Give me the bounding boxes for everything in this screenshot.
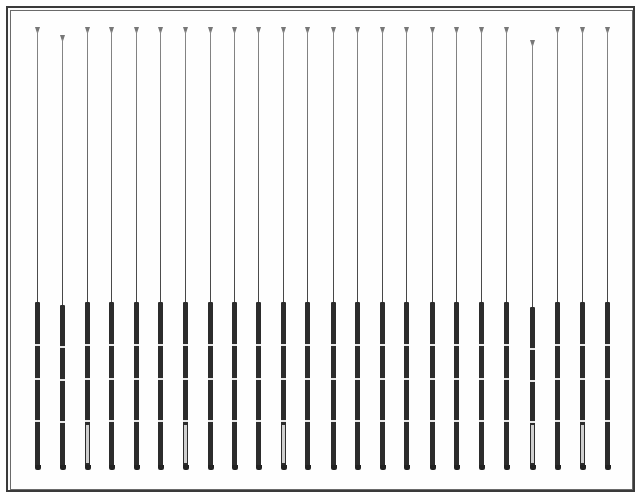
rod-wrap-band bbox=[454, 344, 459, 346]
rod-grip bbox=[581, 425, 584, 463]
rod-butt-cap bbox=[183, 465, 189, 470]
rod-butt-cap bbox=[580, 465, 586, 470]
rod-wrap-band bbox=[504, 378, 509, 380]
rod-wrap-band bbox=[281, 420, 286, 422]
rod-wrap-band bbox=[281, 378, 286, 380]
rod-wrap-band bbox=[158, 344, 163, 346]
rod-butt bbox=[355, 302, 360, 466]
rod-wrap-band bbox=[109, 344, 114, 346]
rod-butt bbox=[305, 302, 310, 466]
fishing-rod bbox=[184, 27, 187, 470]
rod-wrap-band bbox=[404, 344, 409, 346]
rod-shaft bbox=[111, 31, 113, 306]
rod-butt bbox=[479, 302, 484, 466]
fishing-rod bbox=[282, 27, 285, 470]
rod-shaft bbox=[62, 39, 64, 309]
rod-butt bbox=[430, 302, 435, 466]
rod-shaft bbox=[382, 31, 384, 306]
rod-wrap-band bbox=[530, 380, 535, 382]
rod-butt-cap bbox=[158, 465, 164, 470]
rod-wrap-band bbox=[555, 344, 560, 346]
rod-wrap-band bbox=[208, 344, 213, 346]
rod-shaft bbox=[37, 31, 39, 306]
rod-butt-cap bbox=[208, 465, 214, 470]
rod-shaft bbox=[160, 31, 162, 306]
rod-butt-cap bbox=[380, 465, 386, 470]
rod-butt bbox=[380, 302, 385, 466]
rod-butt bbox=[504, 302, 509, 466]
rod-wrap-band bbox=[85, 378, 90, 380]
rod-wrap-band bbox=[605, 344, 610, 346]
rod-shaft bbox=[432, 31, 434, 306]
rod-wrap-band bbox=[281, 344, 286, 346]
fishing-rod bbox=[209, 27, 212, 470]
rod-shaft bbox=[406, 31, 408, 306]
fishing-rod bbox=[480, 27, 483, 470]
rod-wrap-band bbox=[134, 344, 139, 346]
rod-shaft bbox=[136, 31, 138, 306]
rod-wrap-band bbox=[60, 379, 65, 381]
rod-wrap-band bbox=[580, 344, 585, 346]
rod-butt bbox=[256, 302, 261, 466]
fishing-rod bbox=[556, 27, 559, 470]
rod-wrap-band bbox=[208, 378, 213, 380]
fishing-rod bbox=[159, 27, 162, 470]
rod-grip bbox=[184, 425, 187, 463]
rod-butt-cap bbox=[281, 465, 287, 470]
rod-butt-cap bbox=[454, 465, 460, 470]
fishing-rod bbox=[405, 27, 408, 470]
rod-butt bbox=[109, 302, 114, 466]
rod-wrap-band bbox=[404, 378, 409, 380]
rod-butt bbox=[331, 302, 336, 466]
rod-wrap-band bbox=[331, 344, 336, 346]
rod-butt-cap bbox=[331, 465, 337, 470]
rod-wrap-band bbox=[331, 378, 336, 380]
fishing-rod bbox=[431, 27, 434, 470]
rod-wrap-band bbox=[109, 420, 114, 422]
rod-wrap-band bbox=[305, 420, 310, 422]
rod-shaft bbox=[87, 31, 89, 306]
rod-butt bbox=[404, 302, 409, 466]
rod-butt-cap bbox=[479, 465, 485, 470]
rod-butt-cap bbox=[305, 465, 311, 470]
rod-wrap-band bbox=[605, 420, 610, 422]
rod-shaft bbox=[283, 31, 285, 306]
rod-wrap-band bbox=[134, 378, 139, 380]
rod-wrap-band bbox=[504, 344, 509, 346]
rod-butt bbox=[605, 302, 610, 466]
rod-wrap-band bbox=[530, 348, 535, 350]
rod-wrap-band bbox=[109, 378, 114, 380]
fishing-rod bbox=[505, 27, 508, 470]
rod-shaft bbox=[333, 31, 335, 306]
fishing-rod bbox=[381, 27, 384, 470]
rod-wrap-band bbox=[256, 378, 261, 380]
rod-wrap-band bbox=[35, 378, 40, 380]
fishing-rod bbox=[531, 40, 534, 470]
fishing-rod bbox=[356, 27, 359, 470]
fishing-rod bbox=[135, 27, 138, 470]
rod-shaft bbox=[234, 31, 236, 306]
rod-butt-cap bbox=[404, 465, 410, 470]
rod-wrap-band bbox=[331, 420, 336, 422]
rod-shaft bbox=[557, 31, 559, 306]
fishing-rod bbox=[233, 27, 236, 470]
fishing-rod bbox=[86, 27, 89, 470]
rod-shaft bbox=[258, 31, 260, 306]
rod-wrap-band bbox=[605, 378, 610, 380]
rod-shaft bbox=[357, 31, 359, 306]
rod-wrap-band bbox=[380, 378, 385, 380]
rod-shaft bbox=[582, 31, 584, 306]
rod-wrap-band bbox=[305, 344, 310, 346]
rod-wrap-band bbox=[60, 421, 65, 423]
rod-wrap-band bbox=[530, 421, 535, 423]
rod-wrap-band bbox=[256, 344, 261, 346]
rod-wrap-band bbox=[430, 420, 435, 422]
rod-butt bbox=[158, 302, 163, 466]
rod-wrap-band bbox=[232, 378, 237, 380]
rod-wrap-band bbox=[183, 378, 188, 380]
rod-shaft bbox=[307, 31, 309, 306]
rod-wrap-band bbox=[555, 378, 560, 380]
rod-wrap-band bbox=[430, 378, 435, 380]
rod-wrap-band bbox=[504, 420, 509, 422]
fishing-rod bbox=[110, 27, 113, 470]
